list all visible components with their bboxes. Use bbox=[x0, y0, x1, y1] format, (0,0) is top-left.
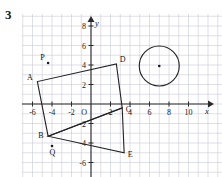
y-tick-label: 4 bbox=[82, 61, 86, 70]
coordinate-geometry-figure: 3 -6-4-2246810-6-4-22468O PQ ABCDE xy bbox=[0, 0, 222, 177]
y-axis-arrow-icon bbox=[88, 16, 95, 22]
y-tick-label: 8 bbox=[82, 22, 86, 31]
axis-name-labels: xy bbox=[94, 18, 209, 116]
x-axis-name: x bbox=[204, 106, 209, 116]
marked-point-p bbox=[47, 62, 50, 65]
vertex-label-d: D bbox=[120, 55, 126, 64]
x-tick-label: -2 bbox=[68, 108, 75, 117]
y-tick-label: 6 bbox=[82, 42, 86, 51]
y-tick-label: -6 bbox=[79, 159, 86, 168]
y-tick-label: 2 bbox=[82, 81, 86, 90]
point-label-p: P bbox=[40, 53, 45, 62]
vertex-label-e: E bbox=[128, 150, 133, 159]
point-label-q: Q bbox=[50, 148, 56, 157]
x-tick-label: -4 bbox=[49, 108, 56, 117]
vertex-label-a: A bbox=[27, 73, 33, 82]
x-tick-label: 8 bbox=[167, 108, 171, 117]
marked-point-q bbox=[51, 145, 54, 148]
y-axis-name: y bbox=[94, 18, 99, 28]
circle-center-dot bbox=[158, 65, 161, 68]
vertex-label-c: C bbox=[126, 105, 131, 114]
marked-points-layer: PQ bbox=[40, 53, 160, 157]
shapes-layer bbox=[37, 46, 179, 153]
vertex-label-b: B bbox=[38, 131, 43, 140]
x-axis-arrow-icon bbox=[208, 101, 214, 108]
coordinate-plane: -6-4-2246810-6-4-22468O PQ ABCDE xy bbox=[0, 0, 222, 177]
origin-label: O bbox=[81, 108, 87, 117]
tick-labels: -6-4-2246810-6-4-22468O bbox=[29, 22, 192, 168]
x-tick-label: 10 bbox=[185, 108, 193, 117]
x-tick-label: -6 bbox=[29, 108, 36, 117]
x-tick-label: 6 bbox=[148, 108, 152, 117]
